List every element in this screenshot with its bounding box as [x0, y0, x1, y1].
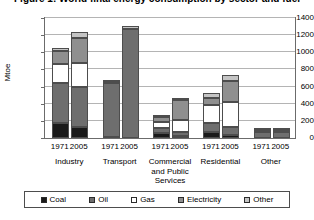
x-tick-label: 2005 [268, 142, 293, 151]
group-label: Commercial and Public Services [141, 157, 199, 186]
x-tick-label: 2005 [217, 142, 242, 151]
bar [153, 18, 170, 138]
bar-segment-other [203, 93, 220, 97]
bar [222, 18, 239, 138]
chart-legend: CoalOilGasElectricityOther [24, 191, 290, 208]
bar-segment-coal [153, 133, 170, 138]
bar-segment-oil [203, 123, 220, 132]
bar [122, 18, 139, 138]
bar [172, 18, 189, 138]
bar-segment-electricity [153, 117, 170, 121]
bars-layer [45, 18, 295, 138]
legend-label: Electricity [187, 195, 221, 204]
x-tick-label: 2005 [66, 142, 91, 151]
legend-label: Other [253, 195, 273, 204]
x-tick-label: 2005 [117, 142, 142, 151]
bar-segment-other [254, 128, 271, 130]
legend-item-other[interactable]: Other [244, 195, 273, 204]
bar-segment-other [172, 98, 189, 100]
bar-segment-other [222, 75, 239, 81]
bar-segment-oil [273, 132, 290, 138]
bar-segment-oil [122, 29, 139, 137]
bar-segment-oil [153, 128, 170, 133]
legend-label: Oil [98, 195, 108, 204]
legend-item-coal[interactable]: Coal [41, 195, 66, 204]
bar-segment-electricity [172, 100, 189, 120]
bar-segment-other [122, 26, 139, 29]
legend-item-gas[interactable]: Gas [131, 195, 155, 204]
group-label: Residential [191, 157, 249, 167]
bar [71, 18, 88, 138]
bar-segment-coal [71, 127, 88, 138]
bar [52, 18, 69, 138]
bar-segment-electricity [52, 51, 69, 65]
legend-swatch-icon [244, 197, 250, 203]
bar [103, 18, 120, 138]
bar-segment-other [153, 115, 170, 117]
legend-label: Gas [140, 195, 155, 204]
energy-consumption-bar-chart: Figure 1: World final energy consumption… [0, 0, 314, 220]
bar-segment-coal [52, 123, 69, 138]
bar-segment-gas [203, 105, 220, 122]
legend-label: Coal [50, 195, 66, 204]
bar-segment-oil [52, 83, 69, 122]
bar-segment-other [52, 48, 69, 51]
bar-segment-electricity [203, 98, 220, 106]
bar-segment-other [103, 80, 120, 82]
bar-segment-electricity [222, 81, 239, 102]
bar-segment-coal [222, 135, 239, 138]
x-tick-label: 2005 [167, 142, 192, 151]
bar-segment-gas [71, 63, 88, 87]
group-label: Industry [40, 157, 98, 167]
bar-segment-oil [222, 127, 239, 136]
bar [254, 18, 271, 138]
plot-area [44, 17, 296, 139]
bar-segment-gas [222, 102, 239, 127]
chart-title: Figure 1: World final energy consumption… [0, 0, 314, 7]
legend-swatch-icon [41, 197, 47, 203]
bar-segment-other [273, 128, 290, 130]
bar-segment-gas [52, 64, 69, 83]
bar-segment-gas [172, 120, 189, 132]
legend-swatch-icon [131, 197, 137, 203]
group-label: Other [242, 157, 300, 167]
bar-segment-electricity [71, 38, 88, 63]
bar-segment-oil [254, 132, 271, 138]
group-label: Transport [91, 157, 149, 167]
bar-segment-other [71, 32, 88, 38]
legend-swatch-icon [89, 197, 95, 203]
bar-segment-oil [71, 87, 88, 127]
legend-swatch-icon [178, 197, 184, 203]
legend-item-oil[interactable]: Oil [89, 195, 108, 204]
legend-item-electricity[interactable]: Electricity [178, 195, 221, 204]
bar-segment-coal [172, 136, 189, 138]
bar-segment-oil [172, 132, 189, 136]
bar-segment-coal [203, 132, 220, 138]
bar [203, 18, 220, 138]
bar-segment-gas [153, 122, 170, 128]
y-axis-title: Mtoe [3, 53, 12, 93]
bar [273, 18, 290, 138]
bar-segment-oil [103, 83, 120, 137]
